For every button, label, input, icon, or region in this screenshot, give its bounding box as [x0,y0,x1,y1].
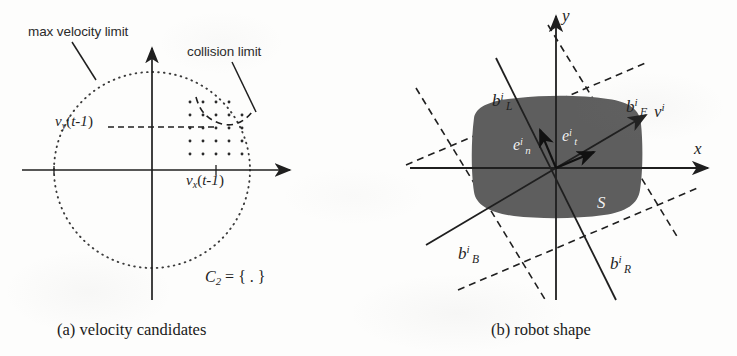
panel-velocity-candidates: max velocity limit collision limit vy(t-… [0,0,368,356]
collision-limit-label: collision limit [187,44,261,59]
unit-normal-label: ei n [513,136,531,156]
max-velocity-leader [72,42,96,80]
panel-robot-shape: y x bi L bi F bi B bi R vi ei n ei t S (… [368,0,737,356]
panel-b-drawing [368,0,737,356]
collision-limit-leader [232,62,256,112]
bound-label-front: bi F [626,96,647,119]
candidate-set-notation: C2 = { . } [205,268,266,287]
bound-label-back: bi B [458,243,479,266]
max-velocity-limit-label: max velocity limit [28,24,128,39]
bound-label-left: bi L [492,90,512,113]
bound-label-right: bi R [610,253,631,276]
robot-body-shape [472,96,643,218]
robot-shape-label: S [597,193,606,213]
vy-axis-label: vy(t-1) [55,113,93,131]
x-axis-label: x [694,139,702,159]
panel-a-caption: (a) velocity candidates [57,320,206,340]
panel-a-drawing [0,0,368,356]
figure-root: max velocity limit collision limit vy(t-… [0,0,737,356]
velocity-vector-label: vi [654,101,665,122]
candidate-point-grid [189,101,244,156]
panel-b-caption: (b) robot shape [491,320,591,340]
y-axis-label: y [562,6,570,26]
vx-axis-label: vx(t-1) [186,172,224,190]
unit-tangent-label: ei t [562,127,577,147]
collision-limit-boundary [196,97,252,125]
